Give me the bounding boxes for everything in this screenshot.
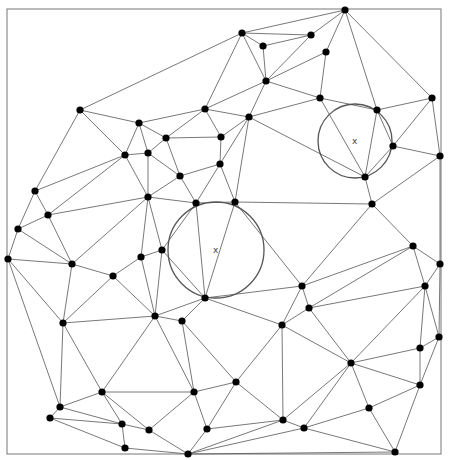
edge [236,325,282,382]
edge [283,363,351,420]
edge [141,197,148,257]
edge [304,408,369,428]
vertex-point [307,31,314,38]
edge [50,418,125,448]
vertex-point [259,42,266,49]
vertex-point [135,119,142,126]
vertex-point [217,133,224,140]
vertex-point [436,152,443,159]
edge [102,316,155,392]
vertex-point [368,200,375,207]
edge [413,246,425,286]
edge [63,264,72,323]
edge [80,33,242,110]
edge [194,392,207,429]
vertex-point [121,151,128,158]
edge [425,286,439,337]
edge [141,257,155,316]
edge [220,117,249,164]
vertex-point [190,388,197,395]
vertex-point [144,149,151,156]
edge [235,202,302,286]
edge [369,408,395,452]
edge [188,420,283,454]
edge [125,123,139,155]
vertex-point [436,260,443,267]
vertex-point [391,448,398,455]
vertex-point [231,198,238,205]
edge [282,325,351,363]
vertex-point [203,425,210,432]
vertex-point [98,388,105,395]
triangulation-diagram: xx [0,0,449,460]
edge [155,316,182,321]
edge [8,259,63,323]
edge [205,202,235,298]
edge [182,321,236,382]
edge [180,176,196,203]
edge [249,98,320,117]
vertex-point [201,294,208,301]
edge [149,430,188,454]
edge [182,321,194,392]
vertex-point [365,404,372,411]
vertex-point [176,172,183,179]
edge [413,246,440,264]
edge [63,316,155,323]
node-group [4,6,443,457]
edge [18,191,35,229]
vertex-point [31,187,38,194]
vertex-point [316,94,323,101]
edge [35,110,80,191]
edge [439,264,440,337]
edge [365,146,393,177]
edge [266,35,311,81]
vertex-point [435,333,442,340]
edge [182,298,205,321]
edge [35,191,48,215]
edge [235,202,372,204]
vertex-point [389,142,396,149]
edge [304,428,395,452]
edge [155,298,205,316]
edge [220,164,235,202]
vertex-point [409,242,416,249]
circumcenter-mark: x [352,136,358,146]
edge [351,363,420,385]
diagram-svg: xx [0,0,449,460]
edge [235,117,249,202]
edge [393,146,440,156]
vertex-point [361,173,368,180]
edge [60,392,102,407]
vertex-point [298,282,305,289]
vertex-point [68,260,75,267]
vertex-point [162,134,169,141]
edge [35,155,125,191]
edge [148,197,196,203]
edge [249,81,266,117]
edge [425,264,440,286]
edge [236,382,283,420]
vertex-point [201,105,208,112]
edge [8,259,72,264]
edge [60,323,63,407]
edge [372,204,413,246]
edge [345,10,377,110]
edge [205,298,282,325]
vertex-point [278,321,285,328]
edge [125,155,148,197]
edge [326,10,345,52]
vertex-point [118,420,125,427]
edge [205,109,221,137]
edge [63,276,113,323]
vertex-point [184,450,191,457]
edge [148,153,180,176]
edge [166,137,221,138]
vertex-point [158,246,165,253]
vertex-point [121,444,128,451]
vertex-point [46,414,53,421]
edge [162,203,196,250]
edge [196,203,205,298]
edge [8,259,60,407]
edge [372,156,440,204]
